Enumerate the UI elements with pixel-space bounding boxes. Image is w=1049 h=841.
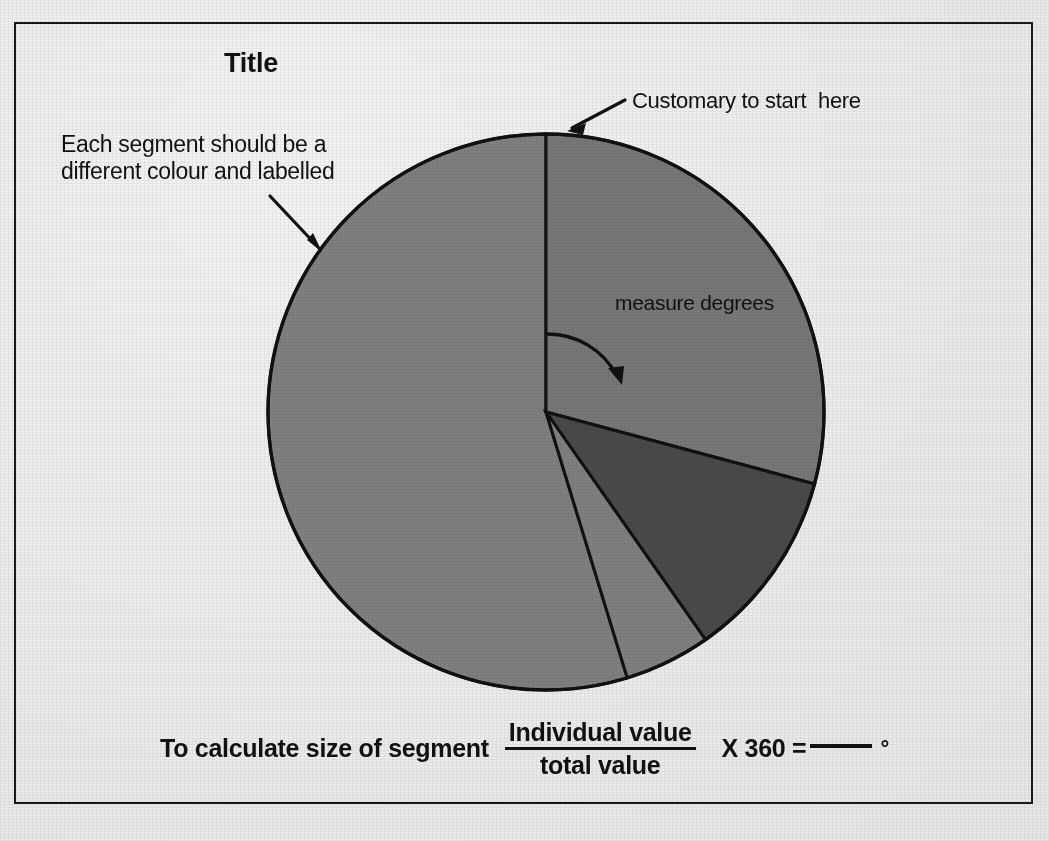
diagram-page: Title Each segment should be a different… [0, 0, 1049, 841]
scan-grain-overlay [0, 0, 1049, 841]
